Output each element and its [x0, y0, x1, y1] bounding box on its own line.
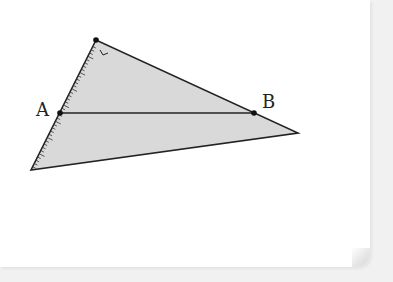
- point-b: [251, 110, 257, 116]
- point-a: [57, 110, 63, 116]
- triangle-figure: [0, 0, 393, 282]
- triangle-shape: [31, 40, 298, 170]
- point-top: [93, 37, 99, 43]
- label-b: B: [262, 91, 275, 112]
- label-a: A: [36, 99, 49, 120]
